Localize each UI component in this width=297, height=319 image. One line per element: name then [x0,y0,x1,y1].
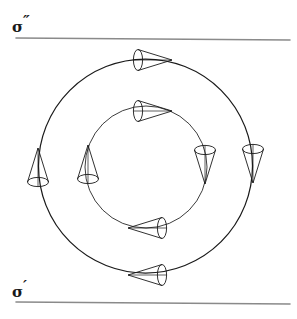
outer-cone-right-marker [243,144,264,183]
sigma-double-prime-mark: ″ [23,12,29,30]
stress-circle-figure: σ″ σ′ [0,0,297,319]
top-reference-rule [16,38,290,40]
sigma-prime-mark: ′ [23,277,26,295]
inner-cone-right-marker [195,145,216,184]
outer-stress-circle [39,59,253,273]
sigma-double-prime-symbol: σ [12,18,23,36]
sigma-prime-symbol: σ [12,283,23,301]
inner-cone-left-marker [78,145,99,184]
bottom-reference-rule [16,302,290,304]
outer-cone-bottom-marker [128,265,167,286]
sigma-double-prime-label: σ″ [12,14,29,35]
sigma-prime-label: σ′ [12,279,26,300]
figure-canvas [0,0,297,319]
outer-cone-top-marker [133,50,172,71]
outer-cone-left-marker [28,148,49,187]
inner-stress-circle [85,106,207,228]
inner-cone-bottom-marker [128,218,167,239]
inner-cone-top-marker [133,101,172,122]
